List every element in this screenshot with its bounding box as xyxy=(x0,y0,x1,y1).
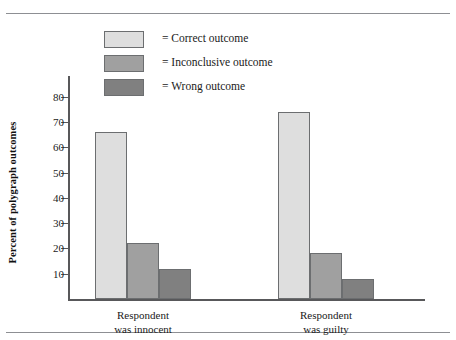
x-axis-line xyxy=(68,299,425,301)
x-axis-category-label-line: Respondent xyxy=(114,309,172,323)
y-axis-title-text: Percent of polygraph outcomes xyxy=(8,121,19,263)
x-axis-category-label: Respondentwas innocent xyxy=(114,309,172,336)
bar xyxy=(310,253,342,299)
y-axis-title: Percent of polygraph outcomes xyxy=(4,112,22,272)
bar xyxy=(342,279,374,299)
polygraph-outcomes-bar-chart: Percent of polygraph outcomes = Correct … xyxy=(0,0,456,340)
x-axis-category-label-line: was innocent xyxy=(114,323,172,337)
bar xyxy=(127,243,159,299)
y-axis-tick-label: 40 xyxy=(53,192,64,203)
y-axis-tick-label: 80 xyxy=(53,91,64,102)
y-axis-tick-label: 20 xyxy=(53,243,64,254)
y-axis-line xyxy=(68,76,70,301)
x-axis-category-label-line: Respondent xyxy=(300,309,352,323)
top-divider-rule xyxy=(6,13,450,14)
y-axis-tick-label: 50 xyxy=(53,167,64,178)
y-axis-tick-label: 30 xyxy=(53,218,64,229)
legend-swatch-correct-icon xyxy=(104,31,144,48)
legend-label-correct: = Correct outcome xyxy=(162,33,248,45)
legend-item-inconclusive: = Inconclusive outcome xyxy=(104,51,334,75)
bar xyxy=(278,112,310,299)
bar xyxy=(95,132,127,299)
legend-swatch-inconclusive-icon xyxy=(104,55,144,72)
y-axis-tick-label: 10 xyxy=(53,268,64,279)
legend-item-correct: = Correct outcome xyxy=(104,27,334,51)
y-axis-tick-label: 60 xyxy=(53,142,64,153)
x-axis-category-label-line: was guilty xyxy=(300,323,352,337)
bar xyxy=(159,269,191,299)
plot-area: 1020304050607080 Respondentwas innocentR… xyxy=(68,76,425,301)
x-axis-category-label: Respondentwas guilty xyxy=(300,309,352,336)
y-axis-tick-label: 70 xyxy=(53,116,64,127)
legend-label-inconclusive: = Inconclusive outcome xyxy=(162,57,273,69)
bottom-divider-rule xyxy=(6,332,450,333)
